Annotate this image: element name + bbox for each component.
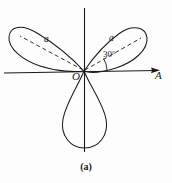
- horizontal-axis-label: A: [155, 70, 162, 81]
- origin-label: O: [72, 71, 80, 82]
- upper-right-lobe-axis-label: a: [109, 34, 114, 44]
- figure-caption: (a): [0, 162, 172, 172]
- radiation-pattern-figure: O A a a 30° (a): [0, 0, 172, 183]
- upper-left-lobe-axis-dashed: [20, 36, 83, 70]
- upper-left-lobe-axis-label: a: [44, 35, 49, 45]
- pattern-diagram: [0, 0, 172, 183]
- angle-arc-30: [104, 59, 107, 71]
- angle-label-30-degrees: 30°: [103, 50, 116, 59]
